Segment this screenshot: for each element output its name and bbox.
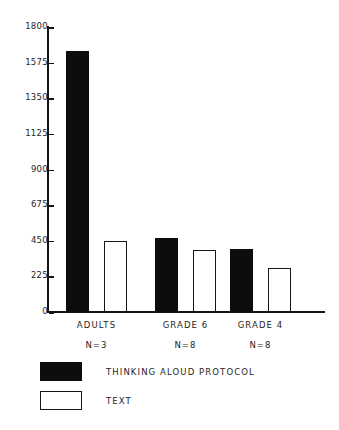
bar-thinking-aloud-protocol-grade-4	[230, 249, 253, 312]
legend-item: THINKING ALOUD PROTOCOL	[40, 359, 300, 384]
legend-swatch-hollow	[40, 391, 82, 410]
legend-item: TEXT	[40, 388, 300, 413]
y-axis-tick-mark	[49, 312, 54, 314]
legend-label: THINKING ALOUD PROTOCOL	[106, 367, 255, 377]
bars-layer	[0, 0, 339, 312]
bar-thinking-aloud-protocol-grade-6	[155, 238, 178, 312]
bar-text-grade-4	[268, 268, 291, 312]
bar-text-grade-6	[193, 250, 216, 312]
bar-text-adults	[104, 241, 127, 312]
chart-legend: THINKING ALOUD PROTOCOLTEXT	[40, 359, 300, 417]
legend-label: TEXT	[106, 396, 132, 406]
bar-chart-figure: 02254506759001125135015751800 ADULTSN=3G…	[0, 0, 339, 430]
category-label-grade-4: GRADE 4	[201, 320, 321, 330]
legend-swatch-filled	[40, 362, 82, 381]
bar-thinking-aloud-protocol-adults	[66, 51, 89, 312]
y-axis-tick: 0	[0, 312, 62, 313]
category-sample-size-grade-4: N=8	[201, 340, 321, 350]
plot-area: 02254506759001125135015751800 ADULTSN=3G…	[0, 0, 339, 340]
